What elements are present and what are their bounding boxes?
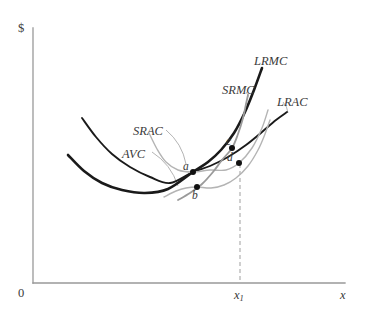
cost-curves-figure: $ x 0 x1LRMCSRMCLRACSRACAVCabcd [0,0,368,321]
axes-group [33,28,345,283]
curve-avc [164,120,270,197]
point-marker-d [236,160,242,166]
x-axis-label: x [340,289,346,302]
origin-label: 0 [18,287,24,300]
curve-label-srmc: SRMC [222,84,255,97]
point-marker-a [190,169,196,175]
point-label-b: b [192,190,198,202]
tick-label-x1: x1 [234,289,244,302]
curve-label-lrac: LRAC [277,96,308,109]
curve-label-srac: SRAC [133,125,163,138]
leader-lines-group [152,92,288,186]
point-label-a: a [183,161,189,173]
curve-srmc [178,95,248,200]
point-label-c: c [226,136,231,148]
curve-label-avc: AVC [122,148,145,161]
point-label-d: d [227,152,233,164]
y-axis-label: $ [18,22,24,35]
curve-label-lrmc: LRMC [254,55,287,68]
SRAC-leader [166,130,186,164]
